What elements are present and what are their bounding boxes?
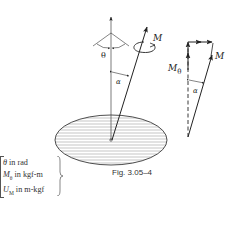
- moment-theta-label: Mθ: [168, 64, 181, 73]
- figure-caption: Fig. 3.05–4: [112, 168, 152, 177]
- alpha-arc: [112, 72, 129, 76]
- alpha-right-label: α: [193, 88, 198, 95]
- moment-theta-sub: θ: [177, 68, 181, 76]
- moment-label: M: [153, 34, 162, 43]
- unit-row-moment: Mθ in kgf-m: [3, 169, 44, 184]
- rotation-ring-icon: [134, 42, 155, 53]
- right-brace: [57, 156, 63, 196]
- moment-right-label: M: [215, 52, 224, 61]
- unit-text: in rad: [7, 158, 28, 167]
- moment-theta-main: M: [168, 63, 177, 73]
- unit-row-theta: θ in rad: [3, 157, 44, 169]
- alpha-label: α: [116, 79, 121, 86]
- unit-symbol: M: [3, 170, 10, 179]
- unit-text: in kgf-m: [12, 170, 42, 179]
- unit-row-energy: UM in m-kgf: [3, 184, 44, 199]
- units-list: θ in rad Mθ in kgf-m UM in m-kgf: [3, 157, 44, 198]
- theta-label: θ: [101, 52, 106, 60]
- unit-text: in m-kgf: [14, 185, 44, 194]
- vector-resolution-diagram: [188, 42, 213, 137]
- shaft-section: [50, 115, 170, 165]
